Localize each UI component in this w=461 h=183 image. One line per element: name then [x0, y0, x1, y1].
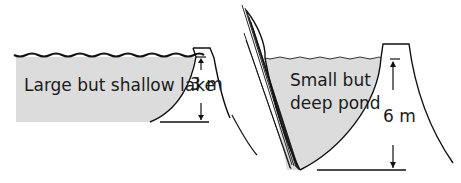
diagram-canvas: Large but shallow lake 3 m Small but dee…	[0, 0, 461, 183]
arrow-down-icon	[198, 115, 204, 120]
deep-pond-group: Small but deep pond 6 m	[232, 5, 453, 170]
shallow-lake-group: Large but shallow lake 3 m	[14, 48, 230, 122]
deep-pond-depth: 6 m	[383, 106, 416, 126]
shallow-lake-label: Large but shallow lake	[24, 75, 215, 95]
arrow-down-icon	[390, 162, 396, 168]
deep-pond-label-line2: deep pond	[290, 93, 381, 113]
cliff-outer-curve	[232, 115, 257, 155]
shallow-lake-depth: 3 m	[190, 74, 223, 94]
deep-pond-label-line1: Small but	[290, 70, 371, 90]
arrow-up-icon	[390, 61, 396, 67]
arrow-up-icon	[198, 58, 204, 63]
shallow-lake-wave-line	[14, 54, 204, 57]
